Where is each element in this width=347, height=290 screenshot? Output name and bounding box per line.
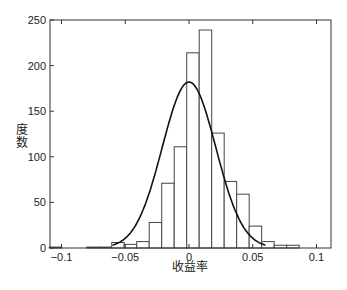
y-tick-label: 50 [34, 196, 46, 208]
y-tick-label: 200 [28, 60, 46, 72]
x-tick-label: −0.1 [51, 251, 73, 263]
x-tick-label: 0.05 [242, 251, 263, 263]
y-tick-label: 150 [28, 105, 46, 117]
histogram-bar [237, 194, 249, 248]
histogram-bar [199, 30, 211, 248]
y-tick-label: 250 [28, 14, 46, 26]
histogram-bar [137, 242, 149, 248]
histogram-bar [174, 147, 186, 248]
histogram-bar [224, 181, 236, 248]
x-axis-label: 收益率 [172, 259, 208, 274]
y-tick-label: 100 [28, 151, 46, 163]
histogram-bar [149, 222, 161, 248]
histogram-bar [162, 183, 174, 248]
x-tick-label: −0.05 [111, 251, 139, 263]
histogram-chart: −0.1−0.0500.050.1 050100150200250 收益率 度数 [0, 0, 347, 290]
y-axis-label: 度数 [16, 122, 28, 150]
y-tick-label: 0 [40, 242, 46, 254]
histogram-bar [124, 244, 136, 248]
histogram-bar [212, 133, 224, 248]
x-tick-label: 0.1 [309, 251, 324, 263]
histogram-bars [49, 30, 299, 248]
